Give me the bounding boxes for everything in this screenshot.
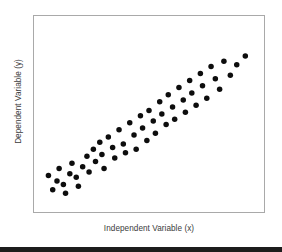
scatter-point (172, 117, 178, 123)
scatter-point (228, 73, 234, 79)
scatter-point (170, 104, 176, 110)
scatter-point (91, 146, 97, 152)
scatter-point (54, 178, 60, 184)
scatter-point (99, 152, 105, 158)
scatter-point (123, 150, 128, 156)
scatter-point (204, 95, 210, 101)
plot-frame (33, 15, 265, 213)
x-axis-title: Independent Variable (x) (33, 224, 265, 233)
scatter-point (63, 190, 69, 196)
scatter-point (221, 58, 227, 64)
scatter-point (234, 62, 240, 68)
y-axis-title: Dependent Variable (y) (14, 2, 23, 202)
scatter-point (217, 87, 223, 93)
scatter-point (243, 53, 249, 59)
scatter-point (213, 76, 219, 82)
scatter-point (121, 141, 127, 147)
scatter-point (208, 64, 214, 69)
scatter-point (153, 131, 159, 137)
scatter-point (93, 159, 99, 165)
scatter-point (193, 102, 199, 108)
scatter-point (61, 182, 67, 188)
scatter-point (146, 108, 152, 114)
scatter-point (97, 139, 103, 145)
scatter-point (73, 175, 79, 181)
scatter-point (86, 169, 92, 175)
scatter-point (112, 155, 118, 161)
scatter-point (200, 83, 206, 89)
scatter-point (157, 99, 163, 105)
scatter-point (187, 78, 193, 84)
scatter-point (176, 85, 182, 91)
plot-area (34, 16, 264, 212)
scatter-point (166, 92, 172, 98)
scatter-point (69, 161, 75, 167)
scatter-point (189, 90, 195, 96)
scatter-point (116, 127, 122, 133)
scatter-point (101, 166, 107, 172)
scatter-plot-figure: Dependent Variable (y) Independent Varia… (0, 0, 282, 252)
scatter-point (50, 187, 56, 193)
scatter-point (84, 153, 90, 159)
scatter-point (80, 164, 86, 170)
bottom-edge-band (0, 247, 282, 252)
scatter-point (46, 173, 52, 179)
scatter-point (198, 71, 204, 77)
scatter-point (67, 171, 73, 177)
scatter-point (140, 125, 146, 131)
scatter-point (131, 132, 137, 138)
scatter-point (144, 138, 150, 144)
scatter-point (163, 122, 169, 128)
scatter-point (180, 97, 186, 103)
scatter-points-layer (34, 16, 264, 212)
scatter-point (183, 109, 189, 115)
scatter-point (76, 183, 82, 189)
scatter-point (159, 111, 165, 117)
scatter-point (133, 146, 139, 152)
scatter-point (110, 145, 116, 151)
scatter-point (106, 134, 112, 140)
scatter-point (138, 113, 144, 119)
scatter-point (127, 120, 132, 126)
scatter-point (56, 166, 62, 172)
scatter-point (151, 118, 157, 124)
